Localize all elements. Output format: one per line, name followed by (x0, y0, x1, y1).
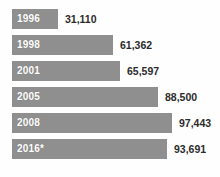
bar-row: 2001 65,597 (0, 61, 220, 81)
bar-category-label: 2001 (17, 66, 40, 76)
bar-1996: 1996 (12, 9, 58, 29)
bar-row: 2008 97,443 (0, 113, 220, 133)
bar-2016: 2016* (12, 139, 167, 159)
bar-value-label: 65,597 (127, 66, 159, 77)
bar-category-label: 1996 (17, 14, 40, 24)
bar-category-label: 1998 (17, 40, 40, 50)
bar-row: 2016* 93,691 (0, 139, 220, 159)
bar-category-label: 2005 (17, 92, 40, 102)
bar-2008: 2008 (12, 113, 172, 133)
bar-row: 1996 31,110 (0, 9, 220, 29)
bar-category-label: 2008 (17, 118, 40, 128)
bar-2001: 2001 (12, 61, 120, 81)
bar-value-label: 93,691 (174, 144, 206, 155)
bar-row: 2005 88,500 (0, 87, 220, 107)
bar-value-label: 31,110 (65, 14, 97, 25)
bar-value-label: 61,362 (120, 40, 152, 51)
bar-value-label: 97,443 (179, 118, 211, 129)
horizontal-bar-chart: 1996 31,110 1998 61,362 2001 65,597 2005… (0, 0, 220, 177)
bar-value-label: 88,500 (165, 92, 197, 103)
bar-category-label: 2016* (17, 144, 44, 154)
bar-2005: 2005 (12, 87, 158, 107)
bar-row: 1998 61,362 (0, 35, 220, 55)
bar-1998: 1998 (12, 35, 113, 55)
